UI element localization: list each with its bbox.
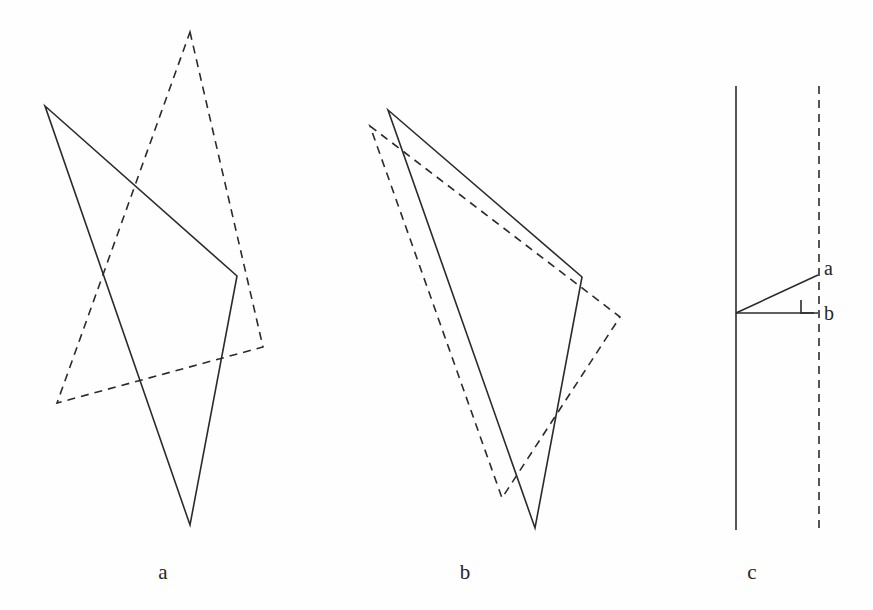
panel-caption-b: b — [445, 562, 485, 583]
label-b: b — [824, 303, 834, 323]
figure-root: a b a b c — [0, 0, 873, 610]
dashed-triangle-a — [57, 32, 263, 403]
label-a: a — [824, 258, 833, 278]
panel-caption-a: a — [143, 562, 183, 583]
solid-triangle-b — [388, 110, 582, 528]
geometry-figure-canvas — [0, 0, 873, 610]
panel-b-group — [370, 110, 620, 528]
dashed-triangle-b — [370, 126, 620, 498]
panel-a-group — [45, 32, 263, 525]
panel-c-group — [736, 86, 819, 530]
right-angle-marker — [801, 300, 814, 313]
panel-caption-c: c — [732, 562, 772, 583]
hypotenuse-segment-a — [736, 275, 818, 313]
